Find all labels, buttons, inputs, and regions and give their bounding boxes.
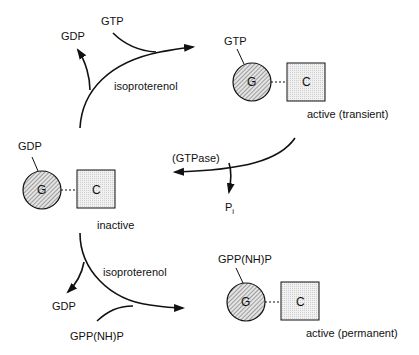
gppnhp-input-label: GPP(NH)P bbox=[70, 330, 124, 342]
c-subunit-label: C bbox=[296, 296, 305, 308]
gtpase-label: (GTPase) bbox=[172, 152, 220, 164]
g-protein-cycle-diagram: GTP GDP isoproterenol GTP G C active (tr… bbox=[0, 0, 419, 355]
g-subunit-label: G bbox=[241, 296, 250, 308]
gdp-release-arrow bbox=[78, 50, 90, 90]
pi-label: Pi bbox=[225, 201, 234, 218]
c-subunit-label: C bbox=[92, 184, 101, 196]
gtp-input-label: GTP bbox=[101, 15, 124, 27]
pi-subscript: i bbox=[232, 207, 234, 216]
c-subunit-label: C bbox=[302, 76, 311, 88]
gdp-pointer-line bbox=[32, 157, 38, 171]
gppnhp-entry-curve bbox=[97, 306, 133, 321]
g-subunit-label: G bbox=[247, 76, 256, 88]
gppnhp-pointer-line bbox=[236, 268, 243, 283]
gdp-bound-label: GDP bbox=[18, 140, 42, 152]
gdp-release-arrow-bottom bbox=[68, 262, 84, 292]
g-subunit-label: G bbox=[37, 184, 46, 196]
isoproterenol-label-bottom: isoproterenol bbox=[103, 266, 167, 278]
hydrolysis-arrows bbox=[175, 138, 295, 192]
active-permanent-state-label: active (permanent) bbox=[306, 327, 398, 339]
gtp-entry-curve bbox=[113, 33, 156, 52]
isoproterenol-label-top: isoproterenol bbox=[114, 80, 178, 92]
active-transient-state-label: active (transient) bbox=[307, 108, 388, 120]
gdp-output-label-bottom: GDP bbox=[52, 300, 76, 312]
inactive-state-label: inactive bbox=[97, 219, 134, 231]
gppnhp-bound-label: GPP(NH)P bbox=[218, 253, 272, 265]
gtp-pointer-line bbox=[237, 49, 244, 64]
gdp-output-label: GDP bbox=[61, 30, 85, 42]
gtp-bound-label: GTP bbox=[224, 35, 247, 47]
